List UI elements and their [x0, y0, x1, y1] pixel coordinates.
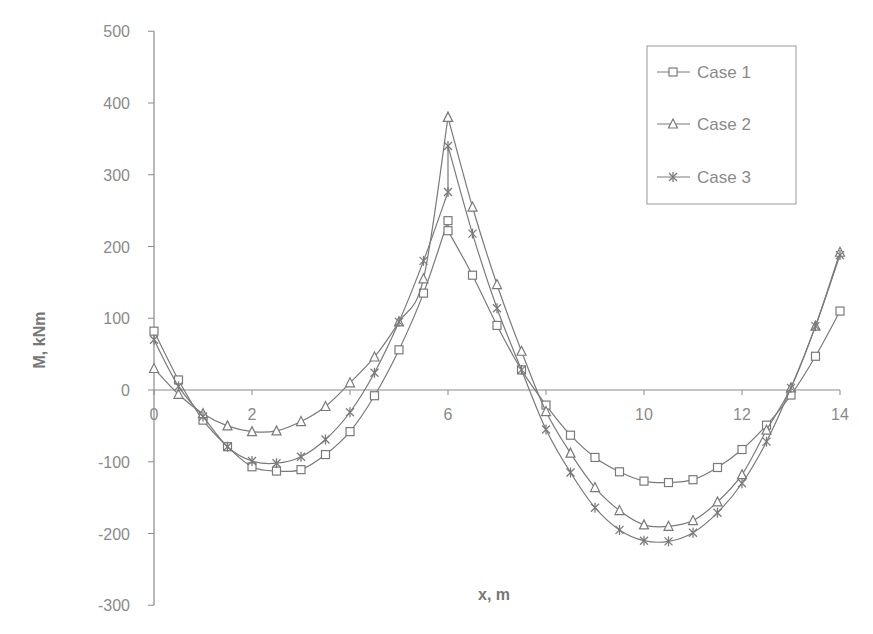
square-marker-icon	[493, 321, 501, 329]
square-marker-icon	[273, 467, 281, 475]
star-marker-icon	[444, 141, 452, 151]
x-tick-label: 2	[248, 406, 257, 423]
series-case-1	[150, 217, 844, 487]
triangle-marker-icon	[566, 448, 575, 457]
star-marker-icon	[689, 528, 697, 538]
triangle-marker-icon	[150, 363, 159, 372]
x-tick-label: 0	[150, 406, 159, 423]
square-marker-icon	[567, 431, 575, 439]
triangle-marker-icon	[444, 112, 453, 121]
star-marker-icon	[542, 424, 550, 434]
y-tick-label: 300	[103, 167, 130, 184]
y-tick-label: -100	[98, 454, 130, 471]
star-marker-icon	[763, 437, 771, 447]
y-tick-label: 100	[103, 310, 130, 327]
y-axis-title: M, kNm	[31, 312, 48, 369]
triangle-marker-icon	[419, 274, 428, 283]
y-tick-label: 0	[121, 382, 130, 399]
square-marker-icon	[322, 451, 330, 459]
x-tick-label: 14	[831, 406, 849, 423]
star-marker-icon	[248, 456, 256, 466]
series-line	[154, 221, 840, 483]
legend: Case 1 Case 2 Case 3	[647, 46, 796, 204]
x-axis-title: x, m	[478, 586, 510, 603]
triangle-marker-icon	[615, 506, 624, 515]
star-marker-icon	[150, 335, 158, 345]
series-line	[154, 146, 840, 542]
square-marker-icon	[714, 463, 722, 471]
square-marker-icon	[297, 466, 305, 474]
star-marker-icon	[714, 508, 722, 518]
star-marker-icon	[175, 381, 183, 391]
square-marker-icon	[395, 346, 403, 354]
triangle-marker-icon	[321, 402, 330, 411]
triangle-marker-icon	[297, 417, 306, 426]
moment-chart: 5004003002001000-100-200-300 026101214 M…	[0, 0, 873, 634]
star-marker-icon	[738, 478, 746, 488]
legend-label: Case 2	[697, 115, 751, 134]
square-marker-icon	[836, 307, 844, 315]
star-marker-icon	[469, 229, 477, 239]
star-marker-icon	[346, 407, 354, 417]
star-marker-icon	[591, 503, 599, 513]
legend-label: Case 1	[697, 63, 751, 82]
star-marker-icon	[297, 452, 305, 462]
y-axis: 5004003002001000-100-200-300	[98, 23, 154, 614]
square-marker-icon	[444, 227, 452, 235]
square-marker-icon	[640, 477, 648, 485]
square-marker-icon	[591, 453, 599, 461]
x-tick-label: 12	[733, 406, 751, 423]
triangle-marker-icon	[689, 516, 698, 525]
triangle-marker-icon	[223, 421, 232, 430]
square-marker-icon	[665, 479, 673, 487]
star-marker-icon	[420, 256, 428, 266]
triangle-marker-icon	[738, 470, 747, 479]
square-marker-icon	[669, 68, 677, 76]
square-marker-icon	[669, 68, 677, 76]
star-marker-icon	[322, 435, 330, 445]
star-marker-icon	[371, 368, 379, 378]
square-marker-icon	[346, 428, 354, 436]
triangle-marker-icon	[468, 202, 477, 211]
star-marker-icon	[444, 187, 452, 197]
square-marker-icon	[812, 352, 820, 360]
square-marker-icon	[738, 446, 746, 454]
triangle-marker-icon	[493, 280, 502, 289]
y-tick-label: -200	[98, 526, 130, 543]
x-tick-label: 10	[635, 406, 653, 423]
star-marker-icon	[616, 525, 624, 535]
square-marker-icon	[469, 271, 477, 279]
y-tick-label: 500	[103, 23, 130, 40]
square-marker-icon	[444, 217, 452, 225]
y-tick-label: 400	[103, 95, 130, 112]
x-axis: 026101214	[150, 390, 849, 423]
star-marker-icon	[567, 468, 575, 478]
square-marker-icon	[371, 392, 379, 400]
triangle-marker-icon	[517, 346, 526, 355]
square-marker-icon	[150, 327, 158, 335]
y-tick-label: 200	[103, 239, 130, 256]
star-marker-icon	[493, 303, 501, 313]
square-marker-icon	[616, 468, 624, 476]
legend-label: Case 3	[697, 168, 751, 187]
x-tick-label: 6	[444, 406, 453, 423]
y-tick-label: -300	[98, 597, 130, 614]
triangle-marker-icon	[640, 520, 649, 529]
square-marker-icon	[689, 476, 697, 484]
